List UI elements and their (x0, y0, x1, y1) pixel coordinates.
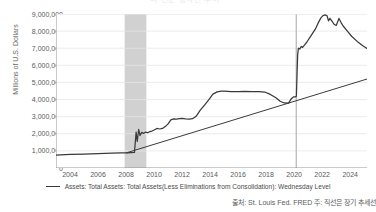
plot-area (56, 14, 367, 168)
trend-line (126, 79, 367, 153)
chart-legend: Assets: Total Assets: Total Assets(Less … (0, 183, 376, 190)
chart-root: 미 연준 총자산 추이 Millions of U.S. Dollars 01,… (0, 0, 376, 212)
legend-label-series: Assets: Total Assets: Total Assets(Less … (65, 183, 331, 190)
legend-swatch-series (46, 186, 60, 187)
source-note: 출처: St. Louis Fed. FRED 주: 직선은 장기 추세선 (0, 197, 376, 207)
chart-canvas (56, 14, 367, 168)
x-tick-label: 2024 (330, 171, 370, 178)
